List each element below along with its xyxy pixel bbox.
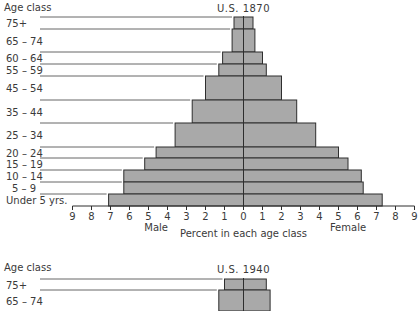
bar-male — [223, 52, 244, 64]
bar-male — [156, 147, 243, 158]
male-label: Male — [144, 222, 168, 233]
bar-male — [124, 170, 244, 182]
x-tick-label-male: 4 — [164, 211, 170, 222]
x-tick-label-female: 6 — [354, 211, 360, 222]
x-tick-label-male: 7 — [107, 211, 113, 222]
bar-male — [109, 194, 244, 206]
bar-male — [234, 17, 244, 29]
x-tick-label-female: 8 — [392, 211, 398, 222]
bar-male — [219, 290, 244, 311]
age-class-label: 15 – 19 — [6, 159, 43, 170]
bar-female — [244, 182, 364, 194]
bar-female — [244, 290, 271, 311]
bar-male — [225, 279, 244, 290]
x-tick-label-male: 3 — [183, 211, 189, 222]
x-tick-label-male: 9 — [69, 211, 75, 222]
x-tick-label-male: 5 — [145, 211, 151, 222]
chart-title: U.S. 1940 — [217, 264, 270, 275]
bar-male — [206, 76, 244, 100]
bar-female — [244, 194, 383, 206]
bar-male — [124, 182, 244, 194]
x-axis-label: Percent in each age class — [180, 228, 307, 239]
x-tick-label-male: 2 — [202, 211, 208, 222]
bar-female — [244, 29, 255, 52]
bar-female — [244, 100, 297, 123]
bar-female — [244, 170, 362, 182]
y-axis-header: Age class — [4, 2, 51, 13]
bar-female — [244, 158, 349, 170]
bar-female — [244, 279, 267, 290]
x-tick-label-female: 0 — [240, 211, 246, 222]
bar-female — [244, 76, 282, 100]
bar-male — [232, 29, 243, 52]
chart-title: U.S. 1870 — [217, 3, 270, 14]
x-tick-label-female: 9 — [411, 211, 417, 222]
pyramid-us-1940: Age classU.S. 194075+65 – 74 — [4, 262, 270, 311]
pyramid-us-1870: Age classU.S. 187075+65 – 7460 – 6455 – … — [4, 2, 418, 239]
bar-male — [219, 64, 244, 76]
x-tick-label-female: 2 — [278, 211, 284, 222]
age-class-label: 60 – 64 — [6, 53, 43, 64]
x-tick-label-female: 4 — [316, 211, 322, 222]
population-pyramid-figure: Age classU.S. 187075+65 – 7460 – 6455 – … — [0, 0, 420, 311]
age-class-label: 10 – 14 — [6, 171, 43, 182]
y-axis-header: Age class — [4, 262, 51, 273]
age-class-label: 5 – 9 — [12, 183, 36, 194]
age-class-label: 25 – 34 — [6, 130, 43, 141]
bar-male — [175, 123, 243, 147]
bar-male — [145, 158, 244, 170]
x-tick-label-female: 3 — [297, 211, 303, 222]
age-class-label: 20 – 24 — [6, 148, 43, 159]
age-class-label: 45 – 54 — [6, 83, 43, 94]
x-tick-label-male: 6 — [126, 211, 132, 222]
bar-male — [192, 100, 243, 123]
age-class-label: Under 5 yrs. — [6, 195, 67, 206]
female-label: Female — [330, 222, 366, 233]
x-tick-label-male: 1 — [221, 211, 227, 222]
x-tick-label-female: 7 — [373, 211, 379, 222]
bar-female — [244, 147, 339, 158]
bar-female — [244, 64, 267, 76]
age-class-label: 35 – 44 — [6, 107, 43, 118]
age-class-label: 65 – 74 — [6, 36, 43, 47]
age-class-label: 75+ — [6, 280, 27, 291]
age-class-label: 65 – 74 — [6, 296, 43, 307]
age-class-label: 55 – 59 — [6, 65, 43, 76]
x-tick-label-female: 5 — [335, 211, 341, 222]
bar-female — [244, 52, 263, 64]
x-tick-label-female: 1 — [259, 211, 265, 222]
bar-female — [244, 17, 254, 29]
age-class-label: 75+ — [6, 18, 27, 29]
bar-female — [244, 123, 316, 147]
x-tick-label-male: 8 — [88, 211, 94, 222]
